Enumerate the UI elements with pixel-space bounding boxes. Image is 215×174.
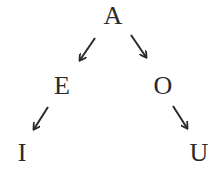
node-a: A — [104, 3, 123, 29]
arrow-e-to-i — [34, 107, 48, 129]
node-o: O — [154, 73, 173, 99]
node-e: E — [54, 73, 70, 99]
node-u: U — [190, 140, 209, 166]
arrow-a-to-o — [131, 35, 146, 57]
arrow-o-to-u — [173, 106, 187, 128]
node-i: I — [18, 140, 27, 166]
arrow-a-to-e — [80, 38, 95, 60]
